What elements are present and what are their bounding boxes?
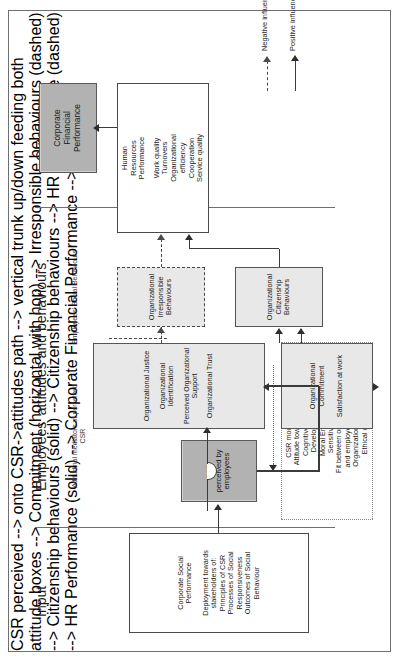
edge-irresponsible-to-hr	[161, 239, 162, 267]
node-corporate-social-performance[interactable]: Corporate Social Performance Deployment …	[129, 533, 309, 633]
node-corporate-financial-performance[interactable]: Corporate Financial Performance	[39, 83, 97, 173]
legend-positive-line	[295, 60, 296, 91]
edge-csr-trunk-vertical	[257, 470, 319, 472]
input-line-9: Behaviour	[253, 567, 261, 599]
edge-hop-arrowhead	[203, 427, 211, 433]
edge-mediators-to-irresponsible-arrowhead	[157, 327, 165, 333]
legend-negative-label: Negative influence	[260, 0, 269, 51]
node-organizational-citizenship-behaviours[interactable]: Organizational Citizenship Behaviours	[235, 267, 323, 327]
diagram-stage: Input Employees' attitudes and behaviour…	[9, 11, 390, 651]
edge-citizenship-to-hr-v	[189, 248, 279, 249]
edge-mediators-bottom-to-commitment-top	[265, 385, 281, 386]
divider-input-attitudes	[35, 527, 335, 528]
cfp-line-2: Performance	[73, 104, 83, 152]
edge-mediators-to-irresponsible-v	[109, 338, 167, 339]
sublabel-employees-social-behaviours: Employees' Social Behaviours	[71, 243, 79, 351]
node-attitudinal-mediators[interactable]: Organizational Justice Organizational Id…	[93, 343, 265, 429]
node-human-resources-performance[interactable]: Human Resources Performance Work quality…	[117, 83, 209, 233]
hr-line-9: Service quality	[196, 134, 205, 182]
edge-input-to-csr-arrowhead	[214, 504, 222, 510]
legend-negative-line	[267, 61, 268, 91]
att-line-0: Organizational Justice	[143, 351, 151, 422]
irr-line-2: Behaviours	[165, 279, 173, 315]
edge-hop-right-segment	[207, 432, 208, 464]
figure-canvas: Input Employees' attitudes and behaviour…	[0, 0, 402, 660]
att-line-6: Support	[191, 373, 199, 398]
edge-citizenship-to-hr-h	[279, 249, 280, 267]
ocb-line-2: Behaviours	[283, 279, 291, 315]
sublabel-attitudinal-mediators: Attitudinal mediators of perceived CSR	[71, 376, 88, 496]
node-organizational-irresponsible-behaviours[interactable]: Organizational Irresponsible Behaviours	[117, 267, 205, 327]
hr-line-2: Performance	[138, 137, 147, 179]
edge-mediators-to-citizenship	[279, 333, 280, 343]
edge-commitment-to-citizenship-arrowhead	[297, 328, 305, 334]
input-line-1: Performance	[185, 562, 193, 603]
edge-csr-to-commitment-arrowhead	[373, 383, 379, 391]
edge-hop-left-segment	[207, 480, 208, 511]
att-line-8: Organizational Trust	[206, 354, 214, 418]
node-csr-perceived-by-employees[interactable]: CSR perceived by employees	[181, 440, 257, 502]
edge-hr-to-cfp-v	[97, 127, 117, 128]
edge-irresponsible-to-hr-arrowhead	[157, 234, 165, 240]
edge-csr-to-attitudes-branch	[318, 386, 320, 472]
edge-moderators-to-path	[273, 365, 274, 465]
edge-input-to-csr	[218, 509, 219, 533]
section-label-input: Input	[33, 586, 49, 617]
figure-frame: Input Employees' attitudes and behaviour…	[8, 10, 391, 652]
legend-negative-arrowhead	[263, 56, 271, 62]
edge-commitment-to-citizenship	[301, 333, 302, 343]
edge-citizenship-to-hr-in	[189, 239, 190, 249]
legend-positive-arrowhead	[291, 55, 299, 61]
edge-citizenship-to-hr-arrowhead	[185, 234, 193, 240]
legend-positive-label: Positive influence	[288, 0, 297, 51]
edge-hr-to-cfp-arrowhead	[93, 124, 99, 132]
section-label-attitudes: Employees' attitudes and behaviours	[33, 263, 49, 491]
csr-line-2: employees	[223, 453, 232, 490]
edge-mediators-to-citizenship-arrowhead	[275, 328, 283, 334]
att-line-3: Identification	[167, 366, 175, 406]
com-line-3: Satisfaction at work	[336, 355, 344, 417]
